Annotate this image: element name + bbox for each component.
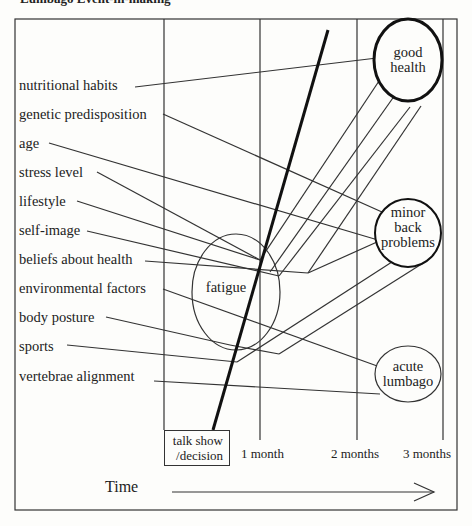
good-health-line2: health	[378, 60, 438, 75]
factor-age: age	[19, 135, 39, 151]
factor-nutritional-habits: nutritional habits	[19, 77, 118, 93]
minor-line1: minor	[375, 205, 441, 220]
connector-sports	[67, 345, 237, 362]
factor-sports: sports	[19, 338, 54, 354]
factor-self-image: self-image	[19, 222, 80, 238]
decision-trajectory-line	[213, 30, 328, 430]
connector-environmental	[163, 289, 380, 367]
time-axis-label: Time	[105, 478, 138, 496]
good-health-line1: good	[378, 45, 438, 60]
path-sports-minor	[237, 260, 395, 362]
connector-beliefs	[145, 261, 308, 273]
minor-line3: problems	[375, 235, 441, 250]
talk-show-decision-box: talk show /decision	[164, 430, 230, 466]
factor-body-posture: body posture	[19, 309, 94, 325]
factor-stress-level: stress level	[19, 164, 83, 180]
time-arrow	[172, 483, 434, 501]
factor-environmental-factors: environmental factors	[19, 280, 146, 296]
acute-line1: acute	[378, 359, 438, 374]
minor-line2: back	[375, 220, 441, 235]
path-posture-minor	[279, 260, 428, 354]
state-good-health: good health	[378, 45, 438, 75]
state-acute-lumbago: acute lumbago	[378, 359, 438, 389]
factor-vertebrae-alignment: vertebrae alignment	[19, 368, 135, 384]
factor-beliefs-about-health: beliefs about health	[19, 251, 133, 267]
tick-2-months: 2 months	[331, 446, 379, 462]
acute-line2: lumbago	[378, 374, 438, 389]
tick-1-month: 1 month	[241, 446, 284, 462]
connector-vertebrae	[154, 381, 380, 394]
talk-show-line1: talk show	[165, 433, 223, 448]
factor-genetic-predisposition: genetic predisposition	[19, 106, 147, 122]
connector-nutritional	[135, 58, 377, 87]
talk-show-line2: /decision	[165, 448, 223, 463]
state-minor-back-problems: minor back problems	[375, 205, 441, 250]
connector-stress	[97, 172, 260, 260]
factor-lifestyle: lifestyle	[19, 193, 66, 209]
state-fatigue: fatigue	[196, 280, 256, 295]
connector-genetic	[163, 114, 382, 212]
tick-3-months: 3 months	[403, 446, 451, 462]
